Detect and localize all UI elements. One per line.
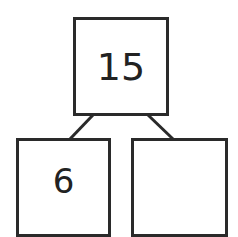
connector-line-right [148,115,173,139]
part-box-left: 6 [16,138,111,237]
part-box-right-empty[interactable] [131,138,228,237]
whole-value: 15 [97,45,145,89]
connector-line-left [70,115,93,139]
whole-box: 15 [73,17,169,116]
part-value-left: 6 [53,161,75,201]
